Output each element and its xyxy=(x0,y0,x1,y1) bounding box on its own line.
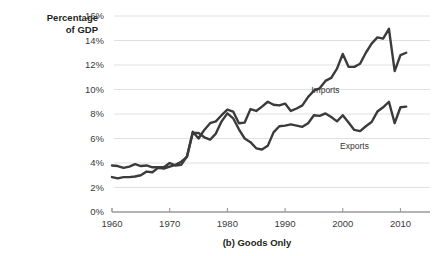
y-axis-tick-8%: 8% xyxy=(78,108,104,119)
x-axis-tick-1970: 1970 xyxy=(150,218,190,229)
chart-figure: Percentage of GDP (b) Goods Only 0%2%4%6… xyxy=(0,0,444,256)
y-axis-tick-4%: 4% xyxy=(78,157,104,168)
figure-caption: (b) Goods Only xyxy=(157,237,357,248)
x-axis-tick-1960: 1960 xyxy=(92,218,132,229)
x-axis-tick-2010: 2010 xyxy=(380,218,420,229)
series-label-exports: Exports xyxy=(340,141,369,151)
x-axis-tick-1980: 1980 xyxy=(207,218,247,229)
y-axis-tick-6%: 6% xyxy=(78,133,104,144)
y-axis-tick-0%: 0% xyxy=(78,206,104,217)
y-axis-tick-10%: 10% xyxy=(78,84,104,95)
y-axis-tick-14%: 14% xyxy=(78,35,104,46)
series-line-imports xyxy=(112,29,406,178)
y-axis-tick-12%: 12% xyxy=(78,59,104,70)
y-axis-tick-2%: 2% xyxy=(78,182,104,193)
series-label-imports: Imports xyxy=(311,85,339,95)
x-axis-tick-1990: 1990 xyxy=(265,218,305,229)
y-axis-tick-16%: 16% xyxy=(78,10,104,21)
x-axis-tick-2000: 2000 xyxy=(323,218,363,229)
series-line-exports xyxy=(112,102,406,168)
